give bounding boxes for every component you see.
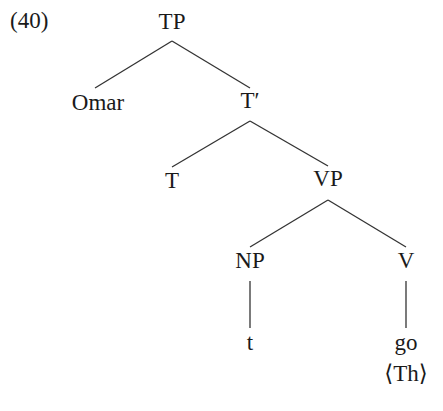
tree-node-go: go [395, 330, 418, 356]
tree-node-vp: VP [313, 166, 342, 192]
tree-edge-vp-np [250, 200, 328, 247]
tree-edge-vp-v [328, 200, 406, 247]
tree-node-tp: TP [159, 9, 186, 35]
tree-node-t: T [165, 168, 179, 194]
tree-edge-tbar-t [172, 121, 250, 167]
tree-node-v: V [398, 248, 415, 274]
tree-node-t-bar: T′ [240, 88, 259, 114]
tree-node-trace: t [247, 330, 253, 356]
tree-edge-tp-omar [95, 41, 172, 88]
tree-node-omar: Omar [72, 90, 124, 116]
tree-edge-tp-tbar [172, 41, 250, 88]
tree-edge-tbar-vp [250, 121, 328, 166]
tree-node-np: NP [235, 248, 264, 274]
tree-edges [0, 0, 443, 411]
tree-node-theta-grid: ⟨Th⟩ [384, 361, 428, 387]
